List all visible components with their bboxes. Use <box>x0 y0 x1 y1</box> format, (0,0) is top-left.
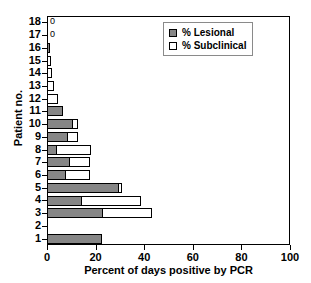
bar-row-patient-14 <box>47 67 290 80</box>
y-tick-mark-11 <box>42 111 47 112</box>
y-tick-label-18: 18 <box>17 15 41 27</box>
bar-segment-lesional <box>47 234 102 244</box>
y-tick-label-11: 11 <box>17 104 41 116</box>
y-tick-label-1: 1 <box>17 232 41 244</box>
x-tick-mark-20 <box>96 245 97 250</box>
bar-segment-subclinical <box>102 208 152 218</box>
y-tick-label-8: 8 <box>17 143 41 155</box>
stacked-bar <box>47 145 91 155</box>
y-tick-label-7: 7 <box>17 155 41 167</box>
x-tick-label-80: 80 <box>221 251 261 263</box>
legend-label: % Subclinical <box>182 40 246 51</box>
y-tick-mark-2 <box>42 226 47 227</box>
x-tick-mark-80 <box>241 245 242 250</box>
bar-row-patient-10 <box>47 118 290 131</box>
y-tick-mark-18 <box>42 22 47 23</box>
bar-segment-subclinical <box>69 157 90 167</box>
y-tick-label-14: 14 <box>17 66 41 78</box>
bar-segment-lesional <box>47 170 66 180</box>
bar-segment-lesional <box>47 132 68 142</box>
bar-row-patient-7 <box>47 156 290 169</box>
y-tick-mark-8 <box>42 150 47 151</box>
y-tick-mark-6 <box>42 175 47 176</box>
stacked-bar <box>47 43 50 53</box>
x-tick-mark-60 <box>193 245 194 250</box>
stacked-bar <box>47 196 141 206</box>
stacked-bar <box>47 183 122 193</box>
x-tick-mark-0 <box>47 245 48 250</box>
bar-segment-subclinical <box>118 183 122 193</box>
lesional-swatch <box>169 29 177 37</box>
y-tick-label-15: 15 <box>17 54 41 66</box>
stacked-bar <box>47 170 90 180</box>
bar-row-patient-11 <box>47 105 290 118</box>
y-tick-mark-7 <box>42 162 47 163</box>
bar-segment-lesional <box>47 43 50 53</box>
x-axis-title: Percent of days positive by PCR <box>47 264 290 276</box>
bar-row-patient-6 <box>47 169 290 182</box>
bar-segment-subclinical <box>67 132 78 142</box>
stacked-bar <box>47 119 78 129</box>
bar-segment-subclinical <box>47 56 51 66</box>
x-tick-mark-40 <box>144 245 145 250</box>
y-tick-label-5: 5 <box>17 181 41 193</box>
zero-value-label: 0 <box>50 28 55 40</box>
stacked-bar <box>47 208 152 218</box>
legend-item-subclinical: % Subclinical <box>169 39 246 52</box>
y-tick-mark-10 <box>42 124 47 125</box>
stacked-bar <box>47 132 78 142</box>
bar-segment-subclinical <box>47 81 54 91</box>
x-tick-label-40: 40 <box>124 251 164 263</box>
bar-segment-subclinical <box>72 119 78 129</box>
stacked-bar <box>47 56 51 66</box>
bar-segment-lesional <box>47 196 82 206</box>
y-tick-mark-4 <box>42 200 47 201</box>
bar-segment-lesional <box>47 119 73 129</box>
bar-row-patient-9 <box>47 131 290 144</box>
bar-row-patient-12 <box>47 92 290 105</box>
y-tick-label-2: 2 <box>17 219 41 231</box>
bar-row-patient-2 <box>47 220 290 233</box>
y-tick-label-10: 10 <box>17 117 41 129</box>
bar-row-patient-4 <box>47 194 290 207</box>
bar-row-patient-13 <box>47 80 290 93</box>
y-tick-label-17: 17 <box>17 28 41 40</box>
bar-row-patient-15 <box>47 54 290 67</box>
y-tick-mark-15 <box>42 61 47 62</box>
chart-legend: % Lesional% Subclinical <box>163 22 253 56</box>
bar-segment-lesional <box>47 157 70 167</box>
y-tick-label-16: 16 <box>17 41 41 53</box>
y-tick-label-6: 6 <box>17 168 41 180</box>
y-tick-mark-13 <box>42 86 47 87</box>
stacked-bar <box>47 94 58 104</box>
bar-row-patient-5 <box>47 181 290 194</box>
y-tick-mark-1 <box>42 239 47 240</box>
bar-segment-subclinical <box>47 94 58 104</box>
subclinical-swatch <box>169 42 177 50</box>
x-tick-mark-100 <box>290 245 291 250</box>
bar-segment-subclinical <box>81 196 141 206</box>
x-tick-label-20: 20 <box>76 251 116 263</box>
bar-row-patient-1 <box>47 232 290 245</box>
y-tick-mark-9 <box>42 137 47 138</box>
zero-value-label: 0 <box>50 15 55 27</box>
stacked-bar <box>47 234 102 244</box>
stacked-bar <box>47 157 90 167</box>
y-tick-mark-17 <box>42 35 47 36</box>
y-tick-label-3: 3 <box>17 206 41 218</box>
y-tick-mark-14 <box>42 73 47 74</box>
bar-segment-lesional <box>47 208 103 218</box>
bar-segment-lesional <box>47 183 119 193</box>
y-tick-mark-16 <box>42 48 47 49</box>
stacked-bar <box>47 81 54 91</box>
x-tick-label-0: 0 <box>27 251 67 263</box>
bar-segment-subclinical <box>56 145 91 155</box>
y-tick-mark-5 <box>42 188 47 189</box>
y-tick-mark-12 <box>42 99 47 100</box>
bar-segment-lesional <box>47 106 63 116</box>
y-tick-mark-3 <box>42 213 47 214</box>
bar-row-patient-3 <box>47 207 290 220</box>
y-tick-label-9: 9 <box>17 130 41 142</box>
y-tick-label-12: 12 <box>17 92 41 104</box>
bar-chart: Patient no. 00 1817161514131211109876543… <box>0 0 311 283</box>
